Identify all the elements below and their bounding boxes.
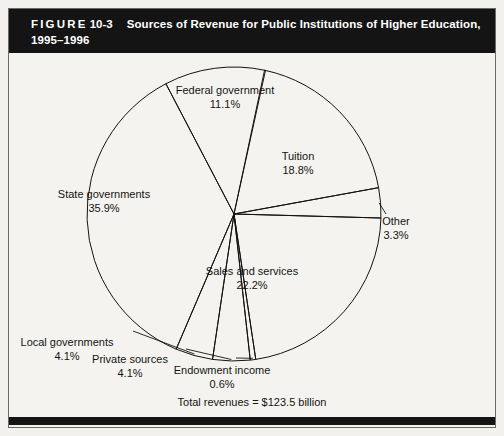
pie-label-value-other: 3.3% [336, 229, 456, 243]
total-revenues-note: Total revenues = $123.5 billion [0, 396, 504, 408]
pie-label-local-governments: Local governments4.1% [7, 336, 127, 363]
leader-line-local-governments [133, 331, 194, 354]
pie-label-other: Other3.3% [336, 215, 456, 242]
figure-title-bar: FIGURE10-3Sources of Revenue for Public … [9, 9, 495, 53]
pie-label-tuition: Tuition18.8% [238, 150, 358, 177]
figure-number: 10-3 [90, 18, 113, 30]
pie-label-federal-government: Federal government11.1% [165, 84, 285, 111]
figure-label-word: FIGURE [31, 18, 88, 30]
pie-label-value-tuition: 18.8% [238, 164, 358, 178]
pie-label-name-tuition: Tuition [238, 150, 358, 164]
pie-label-value-private-sources: 4.1% [70, 367, 190, 381]
pie-label-value-federal-government: 11.1% [165, 98, 285, 112]
pie-label-value-state-governments: 35.9% [44, 202, 164, 216]
figure-caption-line-2: 1995–1996 [31, 32, 495, 48]
pie-label-state-governments: State governments35.9% [44, 188, 164, 215]
pie-label-name-federal-government: Federal government [165, 84, 285, 98]
pie-label-value-local-governments: 4.1% [7, 350, 127, 364]
leader-line-other [379, 203, 386, 214]
pie-label-name-other: Other [336, 215, 456, 229]
pie-label-value-sales-and-services: 22.2% [192, 279, 312, 293]
pie-label-sales-and-services: Sales and services22.2% [192, 265, 312, 292]
pie-label-name-sales-and-services: Sales and services [192, 265, 312, 279]
pie-label-name-state-governments: State governments [44, 188, 164, 202]
pie-label-name-local-governments: Local governments [7, 336, 127, 350]
figure-bottom-rule [9, 417, 495, 425]
figure-title-line-1: FIGURE10-3Sources of Revenue for Public … [31, 16, 495, 32]
figure-caption-line-1: Sources of Revenue for Public Institutio… [127, 18, 481, 30]
leader-line-private-sources [186, 349, 231, 360]
pie-slice-other [234, 188, 381, 218]
pie-slice-state-governments [87, 84, 234, 349]
